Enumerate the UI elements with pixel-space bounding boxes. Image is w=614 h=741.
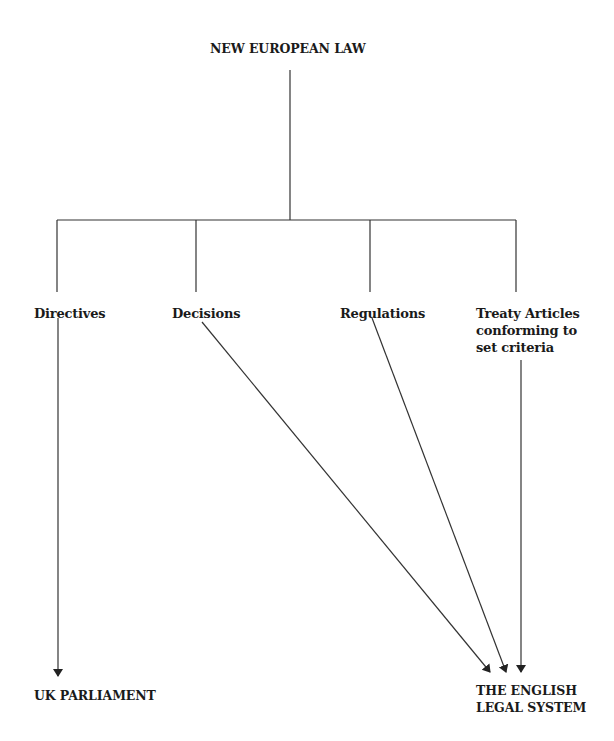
source-decisions-label: Decisions [172, 305, 240, 322]
treaty-line-1: Treaty Articles [476, 305, 580, 322]
legal-system-line-1: THE ENGLISH [476, 682, 586, 699]
target-uk-parliament-label: UK PARLIAMENT [34, 687, 156, 704]
treaty-line-3: set criteria [476, 339, 580, 356]
arrow-decisions-to-legal-system [202, 322, 490, 672]
legal-system-line-2: LEGAL SYSTEM [476, 699, 586, 716]
source-regulations-label: Regulations [340, 305, 425, 322]
arrow-regulations-to-legal-system [372, 318, 506, 672]
connector-lines [0, 0, 614, 741]
root-node-label: NEW EUROPEAN LAW [210, 40, 366, 57]
target-english-legal-system-label: THE ENGLISH LEGAL SYSTEM [476, 682, 586, 716]
treaty-line-2: conforming to [476, 322, 580, 339]
source-directives-label: Directives [34, 305, 105, 322]
source-treaty-label: Treaty Articles conforming to set criter… [476, 305, 580, 356]
